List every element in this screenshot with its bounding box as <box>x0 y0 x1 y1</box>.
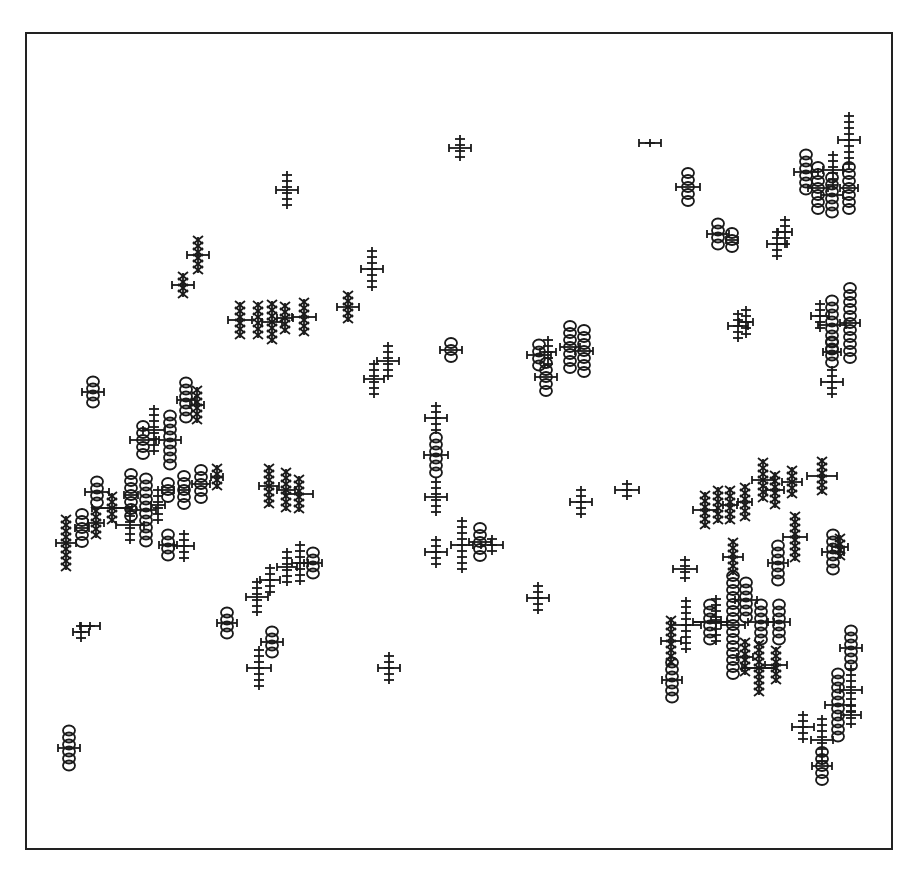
glyph-cross-icon <box>766 471 784 509</box>
glyph-plus-icon <box>615 480 639 500</box>
glyph-plus-icon <box>570 486 592 518</box>
glyph-circle-icon <box>162 478 174 502</box>
glyph-plus-icon <box>174 530 194 562</box>
glyph-circle-icon <box>676 168 700 206</box>
glyph-plus-icon <box>276 171 298 209</box>
glyph-circle-icon <box>840 283 860 363</box>
glyph-cross-icon <box>765 646 787 684</box>
glyph-plus-icon <box>425 536 447 568</box>
glyph-circle-icon <box>768 600 790 645</box>
glyph-cross-icon <box>292 298 316 336</box>
glyph-plus-icon <box>80 622 100 630</box>
glyph-circle-icon <box>575 325 593 377</box>
glyph-cross-icon <box>172 272 194 298</box>
glyph-plus-icon <box>778 216 792 248</box>
glyph-circle-icon <box>440 338 462 362</box>
glyph-circle-icon <box>261 627 283 658</box>
glyph-cross-icon <box>723 486 737 524</box>
glyph-cross-icon <box>713 486 723 524</box>
glyph-circle-icon <box>178 471 190 509</box>
glyph-circle-icon <box>75 509 89 547</box>
glyph-plus-icon <box>425 478 447 516</box>
glyph-plus-icon <box>378 652 400 684</box>
glyph-circle-icon <box>192 465 210 503</box>
glyph-cross-icon <box>782 466 802 498</box>
glyph-cross-icon <box>228 301 252 339</box>
glyph-circle-icon <box>58 726 80 771</box>
glyph-plus-icon <box>449 135 471 161</box>
glyph-circle-icon <box>825 669 851 742</box>
glyph-plus-icon <box>821 366 843 398</box>
glyph-cross-icon <box>88 507 104 539</box>
glyph-circle-icon <box>726 228 738 252</box>
glyph-cross-icon <box>738 483 752 521</box>
glyph-cross-icon <box>259 464 279 508</box>
glyph-plus-icon <box>673 556 697 582</box>
glyph-plus-icon <box>425 402 447 434</box>
glyph-plus-icon <box>838 112 860 168</box>
glyph-circle-icon <box>136 474 156 547</box>
glyph-cross-icon <box>742 640 776 696</box>
glyph-plus-icon <box>361 247 383 291</box>
glyph-cross-icon <box>337 291 359 323</box>
glyph-cross-icon <box>737 638 753 676</box>
glyph-plus-icon <box>671 597 701 653</box>
glyph-cross-icon <box>56 515 76 571</box>
glyph-circle-icon <box>768 541 788 586</box>
glyph-cross-icon <box>807 457 837 495</box>
glyph-plus-icon <box>73 622 89 642</box>
glyph-cross-icon <box>832 534 848 560</box>
glyph-cross-icon <box>783 512 807 562</box>
glyph-circle-icon <box>159 411 181 470</box>
glyph-circle-icon <box>82 377 104 408</box>
glyph-circle-icon <box>469 523 491 561</box>
glyph-circle-icon <box>217 608 237 639</box>
glyph-plus-icon <box>527 582 549 614</box>
glyph-circle-icon <box>560 321 580 373</box>
glyph-circle-icon <box>85 477 109 508</box>
glyph-plus-icon <box>377 342 399 380</box>
glyph-circle-icon <box>424 433 448 478</box>
glyph-plus-icon <box>364 360 384 398</box>
glyph-circle-icon <box>304 548 322 579</box>
glyph-plus-icon <box>739 306 753 338</box>
glyph-cross-icon <box>277 468 295 512</box>
glyph-plus-icon <box>639 139 661 147</box>
glyph-circle-icon <box>693 600 727 645</box>
glyph-cross-icon <box>211 464 223 490</box>
glyph-cross-icon <box>277 302 293 334</box>
glyph-scatter-plot <box>0 0 917 878</box>
glyph-plus-icon <box>728 310 748 342</box>
glyph-plus-icon <box>247 646 271 690</box>
glyph-plus-icon <box>246 578 268 616</box>
glyph-cross-icon <box>187 236 209 274</box>
glyph-plus-icon <box>143 405 165 455</box>
glyph-circle-icon <box>840 626 862 671</box>
glyph-cross-icon <box>262 300 282 344</box>
glyph-circle-icon <box>662 658 682 703</box>
